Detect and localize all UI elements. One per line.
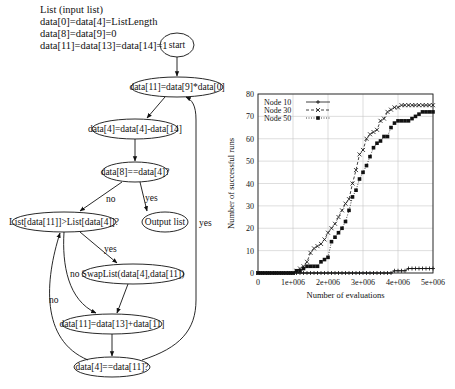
node-check-done: data[8]==data[4]? (101, 167, 170, 177)
y-axis-label: Number of successful runs (226, 138, 236, 229)
x-axis-label: Number of evaluations (307, 290, 385, 300)
y-tick-label: 40 (246, 180, 254, 189)
node-output: Output list (145, 217, 186, 227)
node-swap: SwapList(data[4],data[11]) (82, 269, 185, 280)
y-tick-label: 50 (246, 157, 254, 166)
y-tick-label: 0 (250, 269, 254, 278)
x-tick-label: 0 (256, 278, 260, 287)
legend-label: Node 50 (264, 114, 291, 123)
node-compare: List[data[11]]>List[data[4]]? (9, 217, 119, 227)
x-tick-label: 3e+006 (351, 278, 375, 287)
flowchart-panel: List (input list) data[0]=data[4]=ListLe… (0, 0, 230, 389)
node-start: start (169, 40, 186, 50)
x-tick-label: 1e+006 (281, 278, 305, 287)
chart-panel: 0102030405060708001e+0062e+0063e+0064e+0… (222, 80, 455, 310)
series-node-30 (256, 103, 435, 275)
node-decrement: data[4]=data[4]-data[14] (88, 124, 182, 134)
x-tick-label: 5e+006 (421, 278, 445, 287)
node-check-index: data[4]==data[11]? (75, 362, 148, 372)
y-tick-label: 70 (246, 112, 254, 121)
series-node-50 (256, 110, 435, 275)
edge-label-yes: yes (145, 193, 158, 203)
line-chart: 0102030405060708001e+0062e+0063e+0064e+0… (222, 80, 455, 310)
edge-label-no: no (106, 194, 116, 204)
edge-label-yes: yes (199, 218, 212, 228)
flowchart-diagram: start data[11]=data[9]*data[0] data[4]=d… (0, 0, 230, 389)
edge-label-no: no (70, 269, 80, 279)
y-tick-label: 60 (246, 135, 254, 144)
edge-label-no: no (49, 295, 59, 305)
y-tick-label: 30 (246, 202, 254, 211)
node-compute-index: data[11]=data[9]*data[0] (129, 82, 224, 92)
node-increment: data[11]=data[13]+data[11] (60, 319, 165, 329)
y-tick-label: 80 (246, 90, 254, 99)
y-tick-label: 20 (246, 224, 254, 233)
x-tick-label: 2e+006 (316, 278, 340, 287)
chart-legend: Node 10Node 30Node 50 (264, 98, 330, 123)
y-tick-label: 10 (246, 247, 254, 256)
x-tick-label: 4e+006 (386, 278, 410, 287)
edge-label-yes: yes (104, 244, 117, 254)
